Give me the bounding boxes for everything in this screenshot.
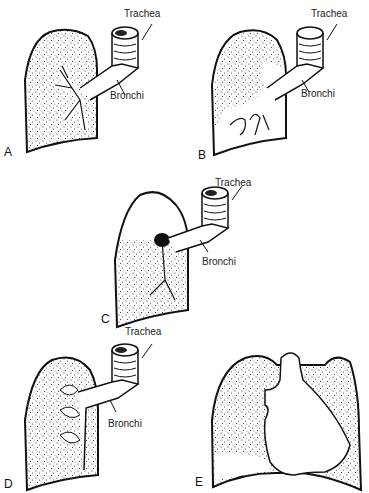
- panel-a: Trachea Bronchi A: [0, 0, 185, 160]
- lung-drawing-e: [185, 320, 369, 493]
- panel-c: Trachea Bronchi C: [90, 160, 290, 330]
- panel-b: Trachea Bronchi B: [185, 0, 369, 160]
- panel-e: E: [185, 320, 369, 493]
- trachea-label-c: Trachea: [215, 177, 251, 188]
- lung-drawing-d: [0, 330, 185, 493]
- panel-letter-a: A: [4, 145, 12, 159]
- bronchi-label-c: Bronchi: [202, 256, 236, 267]
- panel-letter-c: C: [101, 312, 110, 326]
- lung-drawing-c: [90, 160, 290, 330]
- bronchi-label-d: Bronchi: [108, 418, 142, 429]
- lung-drawing-b: [185, 0, 369, 160]
- bronchi-label-b: Bronchi: [301, 88, 335, 99]
- trachea-label-a: Trachea: [124, 8, 160, 19]
- panel-d: Trachea Bronchi D: [0, 330, 185, 493]
- bronchi-label-a: Bronchi: [110, 90, 144, 101]
- trachea-label-d: Trachea: [125, 326, 161, 337]
- lung-drawing-a: [0, 0, 185, 160]
- panel-letter-e: E: [195, 475, 203, 489]
- panel-letter-d: D: [4, 477, 13, 491]
- trachea-label-b: Trachea: [311, 8, 347, 19]
